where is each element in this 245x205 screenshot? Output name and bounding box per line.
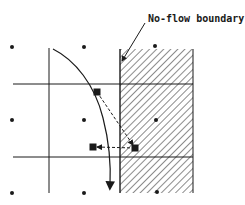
node-dot	[82, 45, 86, 49]
node-dot	[155, 190, 159, 194]
no-flow-boundary-diagram: No-flow boundary	[0, 0, 245, 205]
particle-end	[90, 144, 97, 151]
particle-reflected	[132, 145, 139, 152]
node-dot	[154, 118, 158, 122]
node-dot	[10, 191, 14, 195]
no-flow-boundary-label: No-flow boundary	[148, 13, 244, 24]
node-dot	[10, 118, 14, 122]
particle-start	[94, 89, 101, 96]
node-dot	[153, 44, 157, 48]
streamline-arrow	[53, 49, 110, 186]
node-dot	[82, 191, 86, 195]
node-dot	[10, 45, 14, 49]
node-dot	[82, 118, 86, 122]
